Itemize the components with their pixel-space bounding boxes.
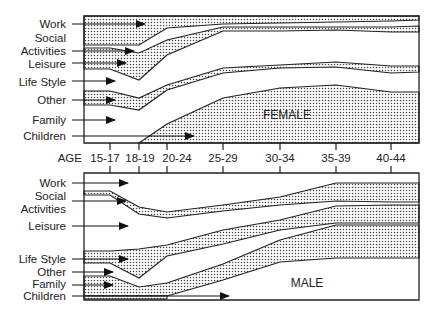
tick-18-19: 18-19	[125, 152, 154, 164]
male-label-leisure: Leisure	[28, 220, 66, 232]
axis-label-age: AGE	[58, 152, 83, 164]
female-label-leisure: Leisure	[28, 58, 66, 70]
age-axis: AGE 15-17 18-19 20-24 25-29 30-34 35-39 …	[58, 143, 407, 173]
male-label-activities: Activities	[21, 203, 67, 215]
female-label-social: Social	[35, 32, 66, 44]
tick-35-39: 35-39	[321, 152, 350, 164]
male-label-work: Work	[39, 177, 66, 189]
life-domains-chart: Work Social Activities Leisure Life Styl…	[0, 0, 437, 313]
female-label-children: Children	[23, 130, 66, 142]
female-label-activities: Activities	[21, 45, 67, 57]
tick-40-44: 40-44	[376, 152, 406, 164]
female-label-lifestyle: Life Style	[19, 76, 66, 88]
male-label-family: Family	[32, 278, 66, 290]
tick-15-17: 15-17	[90, 152, 119, 164]
female-panel: Work Social Activities Leisure Life Styl…	[19, 16, 419, 143]
male-label-social: Social	[35, 190, 66, 202]
tick-30-34: 30-34	[265, 152, 295, 164]
tick-25-29: 25-29	[208, 152, 237, 164]
female-label-other: Other	[37, 94, 66, 106]
male-title: MALE	[291, 276, 324, 290]
female-title: FEMALE	[263, 108, 311, 122]
female-label-work: Work	[39, 18, 66, 30]
male-label-other: Other	[37, 266, 66, 278]
tick-20-24: 20-24	[162, 152, 192, 164]
male-label-children: Children	[23, 290, 66, 302]
female-label-family: Family	[32, 114, 66, 126]
male-label-lifestyle: Life Style	[19, 253, 66, 265]
male-panel: Work Social Activities Leisure Life Styl…	[19, 173, 419, 302]
